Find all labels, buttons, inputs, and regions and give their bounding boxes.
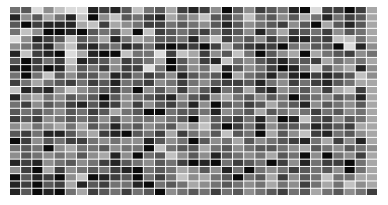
heatmap-cell-r5-c17: [200, 43, 210, 49]
heatmap-cell-r15-c5: [66, 116, 76, 122]
heatmap-cell-r12-c3: [43, 94, 53, 100]
heatmap-cell-r13-c12: [144, 102, 154, 108]
heatmap-cell-r14-c24: [278, 109, 288, 115]
heatmap-cell-r9-c22: [255, 72, 265, 78]
heatmap-cell-r6-c5: [66, 51, 76, 57]
heatmap-cell-r10-c13: [155, 80, 165, 86]
heatmap-cell-r10-c26: [300, 80, 310, 86]
heatmap-cell-r4-c18: [211, 36, 221, 42]
heatmap-cell-r22-c8: [99, 167, 109, 173]
heatmap-cell-r1-c26: [300, 14, 310, 20]
heatmap-cell-r21-c16: [188, 160, 198, 166]
heatmap-cell-r2-c18: [211, 22, 221, 28]
heatmap-cell-r3-c17: [200, 29, 210, 35]
heatmap-cell-r8-c0: [10, 65, 20, 71]
heatmap-cell-r19-c16: [188, 145, 198, 151]
heatmap-cell-r25-c19: [222, 189, 232, 195]
heatmap-cell-r15-c25: [289, 116, 299, 122]
heatmap-cell-r18-c6: [77, 138, 87, 144]
heatmap-cell-r0-c17: [200, 7, 210, 13]
heatmap-cell-r4-c17: [200, 36, 210, 42]
heatmap-cell-r4-c27: [311, 36, 321, 42]
heatmap-cell-r17-c22: [255, 131, 265, 137]
heatmap-cell-r21-c28: [322, 160, 332, 166]
heatmap-cell-r6-c10: [122, 51, 132, 57]
heatmap-cell-r2-c24: [278, 22, 288, 28]
heatmap-cell-r1-c24: [278, 14, 288, 20]
heatmap-cell-r21-c3: [43, 160, 53, 166]
heatmap-cell-r3-c21: [244, 29, 254, 35]
heatmap-cell-r14-c4: [55, 109, 65, 115]
heatmap-cell-r17-c26: [300, 131, 310, 137]
heatmap-cell-r4-c1: [21, 36, 31, 42]
heatmap-cell-r17-c3: [43, 131, 53, 137]
heatmap-cell-r5-c20: [233, 43, 243, 49]
heatmap-cell-r18-c1: [21, 138, 31, 144]
heatmap-cell-r16-c8: [99, 123, 109, 129]
heatmap-cell-r12-c25: [289, 94, 299, 100]
heatmap-cell-r12-c2: [32, 94, 42, 100]
heatmap-cell-r16-c32: [367, 123, 377, 129]
heatmap-cell-r9-c6: [77, 72, 87, 78]
heatmap-cell-r10-c27: [311, 80, 321, 86]
heatmap-cell-r11-c22: [255, 87, 265, 93]
heatmap-cell-r4-c5: [66, 36, 76, 42]
heatmap-cell-r18-c9: [110, 138, 120, 144]
heatmap-cell-r15-c4: [55, 116, 65, 122]
heatmap-cell-r19-c1: [21, 145, 31, 151]
heatmap-cell-r0-c19: [222, 7, 232, 13]
heatmap-cell-r9-c18: [211, 72, 221, 78]
heatmap-cell-r7-c18: [211, 58, 221, 64]
heatmap-cell-r20-c1: [21, 152, 31, 158]
heatmap-cell-r25-c20: [233, 189, 243, 195]
heatmap-cell-r2-c23: [266, 22, 276, 28]
heatmap-cell-r20-c27: [311, 152, 321, 158]
heatmap-cell-r15-c8: [99, 116, 109, 122]
heatmap-cell-r14-c19: [222, 109, 232, 115]
heatmap-cell-r7-c19: [222, 58, 232, 64]
heatmap-cell-r2-c12: [144, 22, 154, 28]
heatmap-cell-r1-c22: [255, 14, 265, 20]
heatmap-cell-r9-c15: [177, 72, 187, 78]
heatmap-cell-r7-c21: [244, 58, 254, 64]
heatmap-cell-r15-c30: [345, 116, 355, 122]
heatmap-cell-r19-c4: [55, 145, 65, 151]
heatmap-cell-r12-c11: [133, 94, 143, 100]
heatmap-cell-r21-c27: [311, 160, 321, 166]
heatmap-cell-r4-c7: [88, 36, 98, 42]
heatmap-cell-r24-c25: [289, 181, 299, 187]
heatmap-cell-r18-c19: [222, 138, 232, 144]
heatmap-cell-r11-c3: [43, 87, 53, 93]
heatmap-cell-r7-c29: [333, 58, 343, 64]
heatmap-cell-r17-c19: [222, 131, 232, 137]
heatmap-cell-r0-c28: [322, 7, 332, 13]
heatmap-cell-r8-c31: [356, 65, 366, 71]
heatmap-cell-r8-c4: [55, 65, 65, 71]
heatmap-cell-r16-c20: [233, 123, 243, 129]
heatmap-cell-r9-c7: [88, 72, 98, 78]
heatmap-cell-r2-c31: [356, 22, 366, 28]
heatmap-cell-r20-c2: [32, 152, 42, 158]
heatmap-cell-r1-c18: [211, 14, 221, 20]
heatmap-cell-r19-c7: [88, 145, 98, 151]
heatmap-cell-r1-c14: [166, 14, 176, 20]
heatmap-cell-r2-c16: [188, 22, 198, 28]
heatmap-cell-r20-c3: [43, 152, 53, 158]
heatmap-cell-r14-c1: [21, 109, 31, 115]
heatmap-cell-r10-c0: [10, 80, 20, 86]
heatmap-cell-r18-c21: [244, 138, 254, 144]
heatmap-cell-r1-c25: [289, 14, 299, 20]
heatmap-cell-r13-c29: [333, 102, 343, 108]
heatmap-cell-r16-c4: [55, 123, 65, 129]
heatmap-cell-r9-c13: [155, 72, 165, 78]
heatmap-cell-r23-c7: [88, 174, 98, 180]
heatmap-cell-r20-c5: [66, 152, 76, 158]
heatmap-cell-r17-c5: [66, 131, 76, 137]
heatmap-cell-r18-c4: [55, 138, 65, 144]
heatmap-cell-r23-c22: [255, 174, 265, 180]
heatmap-cell-r2-c22: [255, 22, 265, 28]
heatmap-cell-r17-c9: [110, 131, 120, 137]
heatmap-cell-r15-c1: [21, 116, 31, 122]
heatmap-cell-r21-c30: [345, 160, 355, 166]
heatmap-cell-r17-c0: [10, 131, 20, 137]
